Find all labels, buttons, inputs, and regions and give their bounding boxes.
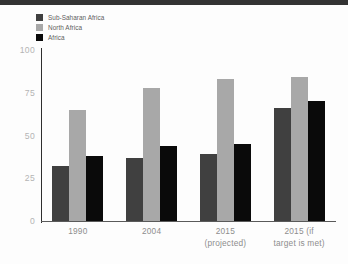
x-axis-tick-label: 2015 (iftarget is met) — [274, 226, 325, 249]
legend-item: Africa — [36, 33, 104, 42]
x-axis-tick-label-line: 2015 — [204, 226, 246, 238]
bar-group: 2015(projected) — [189, 50, 263, 221]
bar — [200, 154, 217, 221]
bar-stack — [262, 50, 336, 221]
legend-item: North Africa — [36, 23, 104, 32]
x-axis-tick-label-line: 2004 — [142, 226, 161, 238]
x-axis-tick-label-line: 1990 — [68, 226, 87, 238]
bar-group: 1990 — [41, 50, 115, 221]
y-axis-tick-label: 0 — [30, 216, 35, 226]
plot-area: 0255075100 199020042015(projected)2015 (… — [41, 50, 336, 221]
x-axis-tick-label: 2004 — [142, 226, 161, 238]
x-axis-tick-label-line: (projected) — [204, 238, 246, 250]
legend-label: Africa — [48, 33, 65, 42]
bar-stack — [41, 50, 115, 221]
y-axis-tick-label: 25 — [25, 173, 35, 183]
x-axis-tick-label-line: 2015 (if — [274, 226, 325, 238]
legend-label: North Africa — [48, 23, 82, 32]
bar — [308, 101, 325, 221]
legend-swatch-icon — [36, 24, 43, 31]
legend-item: Sub-Saharan Africa — [36, 13, 104, 22]
bar — [291, 77, 308, 221]
bar — [52, 166, 69, 221]
bar-groups: 199020042015(projected)2015 (iftarget is… — [41, 50, 336, 221]
legend-swatch-icon — [36, 34, 43, 41]
bar-stack — [115, 50, 189, 221]
header-band — [0, 0, 348, 5]
y-axis-tick-label: 75 — [25, 88, 35, 98]
x-axis-line — [41, 221, 336, 222]
bar — [143, 88, 160, 221]
bar — [86, 156, 103, 221]
bar — [160, 146, 177, 221]
legend-swatch-icon — [36, 14, 43, 21]
bar — [126, 158, 143, 221]
chart-figure: Sub-Saharan AfricaNorth AfricaAfrica 025… — [0, 0, 348, 264]
x-axis-tick-label: 1990 — [68, 226, 87, 238]
bar-stack — [189, 50, 263, 221]
bar-group: 2004 — [115, 50, 189, 221]
bar — [69, 110, 86, 221]
x-axis-tick-label: 2015(projected) — [204, 226, 246, 249]
bar — [274, 108, 291, 221]
y-axis-tick-label: 100 — [20, 45, 35, 55]
legend-label: Sub-Saharan Africa — [48, 13, 104, 22]
bar — [217, 79, 234, 221]
chart-legend: Sub-Saharan AfricaNorth AfricaAfrica — [36, 13, 104, 42]
bar-group: 2015 (iftarget is met) — [262, 50, 336, 221]
x-axis-tick-label-line: target is met) — [274, 238, 325, 250]
bar — [234, 144, 251, 221]
y-axis-tick-label: 50 — [25, 131, 35, 141]
